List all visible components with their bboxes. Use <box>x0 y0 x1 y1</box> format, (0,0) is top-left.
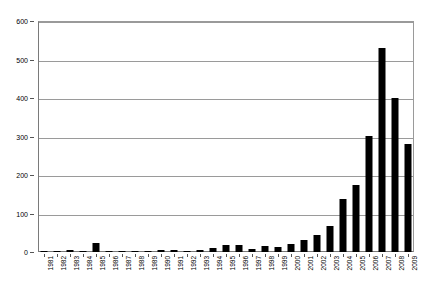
x-tick-label-2007: 2007 <box>385 256 392 270</box>
bar-slot <box>271 21 284 252</box>
y-tick-mark <box>30 98 34 99</box>
bar-slot <box>323 21 336 252</box>
x-tick-label-2000: 2000 <box>294 256 301 270</box>
bar-slot <box>77 21 90 252</box>
x-tick-mark <box>408 254 409 257</box>
x-tick-mark <box>109 254 110 257</box>
x-tick-label-1992: 1992 <box>190 256 197 270</box>
bar-slot <box>194 21 207 252</box>
bar-1994[interactable] <box>210 248 217 252</box>
bar-slot <box>207 21 220 252</box>
bar-2001[interactable] <box>300 240 307 252</box>
x-tick-label-1984: 1984 <box>86 256 93 270</box>
bar-1997[interactable] <box>248 249 255 252</box>
bar-slot <box>297 21 310 252</box>
bar-1995[interactable] <box>222 245 229 252</box>
bar-slot <box>401 21 414 252</box>
bar-slot <box>64 21 77 252</box>
bar-slot <box>116 21 129 252</box>
x-tick-mark <box>174 254 175 257</box>
x-tick-mark <box>148 254 149 257</box>
bar-slot <box>336 21 349 252</box>
bar-slot <box>284 21 297 252</box>
x-tick-label-2004: 2004 <box>346 256 353 270</box>
x-tick-label-2008: 2008 <box>398 256 405 270</box>
y-tick-mark <box>30 175 34 176</box>
bar-slot <box>388 21 401 252</box>
y-tick-mark <box>30 214 34 215</box>
bar-1996[interactable] <box>235 245 242 252</box>
x-tick-label-1983: 1983 <box>73 256 80 270</box>
x-tick-label-2001: 2001 <box>307 256 314 270</box>
x-tick-label-1996: 1996 <box>242 256 249 270</box>
bar-2003[interactable] <box>326 226 333 252</box>
bar-1992[interactable] <box>184 251 191 252</box>
bar-1991[interactable] <box>171 250 178 252</box>
x-tick-mark <box>356 254 357 257</box>
bar-1983[interactable] <box>67 250 74 252</box>
bar-1999[interactable] <box>274 247 281 252</box>
x-tick-mark <box>278 254 279 257</box>
x-tick-mark <box>57 254 58 257</box>
bar-2002[interactable] <box>313 235 320 252</box>
bar-chart: 0100200300400500600 19811982198319841985… <box>0 0 430 290</box>
bar-slot <box>51 21 64 252</box>
bar-1990[interactable] <box>158 250 165 252</box>
bar-2007[interactable] <box>378 48 385 252</box>
x-tick-mark <box>213 254 214 257</box>
bar-1984[interactable] <box>80 251 87 252</box>
x-tick-mark <box>330 254 331 257</box>
x-tick-mark <box>252 254 253 257</box>
bar-1993[interactable] <box>197 250 204 252</box>
x-axis: 1981198219831984198519861987198819891990… <box>38 254 414 290</box>
x-tick-mark <box>317 254 318 257</box>
bar-slot <box>220 21 233 252</box>
bar-2000[interactable] <box>287 244 294 252</box>
y-tick-label: 600 <box>16 18 28 25</box>
bar-2006[interactable] <box>365 136 372 252</box>
y-tick-label: 200 <box>16 172 28 179</box>
bar-1981[interactable] <box>41 251 48 252</box>
x-tick-label-2005: 2005 <box>359 256 366 270</box>
x-tick-mark <box>226 254 227 257</box>
y-tick-label: 400 <box>16 95 28 102</box>
x-tick-label-1989: 1989 <box>151 256 158 270</box>
x-tick-label-1997: 1997 <box>255 256 262 270</box>
x-tick-label-1993: 1993 <box>203 256 210 270</box>
bar-2009[interactable] <box>404 144 411 252</box>
x-tick-mark <box>395 254 396 257</box>
bar-slot <box>232 21 245 252</box>
x-tick-label-1994: 1994 <box>216 256 223 270</box>
x-tick-label-2009: 2009 <box>411 256 418 270</box>
bar-1998[interactable] <box>261 246 268 252</box>
bar-slot <box>168 21 181 252</box>
y-tick-mark <box>30 60 34 61</box>
x-tick-label-1999: 1999 <box>281 256 288 270</box>
x-tick-mark <box>70 254 71 257</box>
x-tick-label-1985: 1985 <box>99 256 106 270</box>
x-tick-label-1981: 1981 <box>47 256 54 270</box>
y-tick-label: 100 <box>16 210 28 217</box>
bar-1989[interactable] <box>145 251 152 252</box>
x-tick-label-1995: 1995 <box>229 256 236 270</box>
bar-slot <box>310 21 323 252</box>
bar-2004[interactable] <box>339 199 346 252</box>
bar-2008[interactable] <box>391 98 398 252</box>
y-axis: 0100200300400500600 <box>0 0 34 290</box>
bar-1985[interactable] <box>93 243 100 252</box>
x-tick-mark <box>135 254 136 257</box>
bar-1988[interactable] <box>132 251 139 252</box>
x-tick-mark <box>96 254 97 257</box>
bar-slot <box>349 21 362 252</box>
bar-1986[interactable] <box>106 251 113 252</box>
x-tick-label-2003: 2003 <box>333 256 340 270</box>
x-tick-label-1988: 1988 <box>138 256 145 270</box>
y-tick-label: 300 <box>16 133 28 140</box>
y-tick-label: 0 <box>24 249 28 256</box>
bar-slot <box>129 21 142 252</box>
bar-1987[interactable] <box>119 251 126 252</box>
x-tick-label-1987: 1987 <box>125 256 132 270</box>
bar-1982[interactable] <box>54 251 61 252</box>
y-tick-mark <box>30 252 34 253</box>
bar-2005[interactable] <box>352 185 359 252</box>
